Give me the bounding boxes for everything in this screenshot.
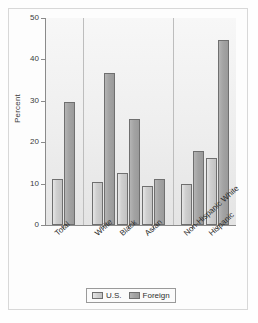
legend-item-us: U.S. — [92, 291, 122, 300]
y-tick-label: 0 — [17, 221, 39, 229]
group-separator-line — [173, 18, 174, 225]
bar-foreign-total — [64, 102, 75, 225]
x-axis-line — [45, 225, 236, 226]
y-tick-mark — [41, 142, 45, 143]
y-tick-mark — [41, 184, 45, 185]
y-tick-label: 50 — [17, 14, 39, 22]
bar-us-white — [92, 182, 103, 225]
y-tick-mark — [41, 101, 45, 102]
y-tick-mark — [41, 18, 45, 19]
legend-label-us: U.S. — [106, 291, 122, 300]
chart-figure: 01020304050 Percent TotalWhiteBlackAsian… — [0, 0, 258, 323]
y-axis-line — [45, 18, 46, 226]
y-tick-label: 40 — [17, 55, 39, 63]
bar-us-total — [52, 179, 63, 225]
legend-swatch-foreign — [129, 292, 140, 299]
bar-us-black — [117, 173, 128, 225]
bar-foreign-white — [104, 73, 115, 225]
y-tick-label: 10 — [17, 180, 39, 188]
chart-legend: U.S.Foreign — [86, 288, 176, 303]
legend-item-foreign: Foreign — [129, 291, 170, 300]
legend-label-foreign: Foreign — [143, 291, 170, 300]
y-tick-mark — [41, 59, 45, 60]
bar-us-non-hispanic-white — [181, 184, 192, 225]
y-tick-mark — [41, 225, 45, 226]
y-tick-label: 20 — [17, 138, 39, 146]
bar-us-asian — [142, 186, 153, 225]
group-separator-line — [83, 18, 84, 225]
legend-swatch-us — [92, 292, 103, 299]
bar-foreign-black — [129, 119, 140, 225]
y-axis-title: Percent — [13, 79, 22, 139]
